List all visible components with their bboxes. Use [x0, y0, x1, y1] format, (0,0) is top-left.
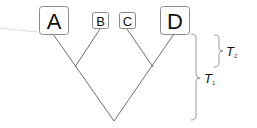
t1-label: T1	[204, 71, 216, 86]
tree-diagram: A B C D T1 T2	[0, 0, 257, 128]
branch-c-cd	[127, 29, 153, 67]
t2-brace	[214, 35, 223, 67]
leaf-c: C	[120, 13, 136, 29]
leaf-d-label: D	[167, 9, 183, 34]
leaf-b-label: B	[96, 14, 105, 29]
leaf-a-label: A	[47, 9, 62, 34]
branch-b-ab	[75, 29, 100, 67]
t1-brace	[191, 34, 200, 120]
leaf-c-label: C	[123, 14, 132, 29]
t2-label: T2	[226, 44, 238, 59]
leaf-a: A	[40, 7, 69, 35]
faint-guide-line	[0, 28, 38, 32]
tree-branches	[53, 29, 174, 121]
leaf-b: B	[93, 13, 109, 29]
leaf-d: D	[161, 7, 190, 35]
branch-d-root	[114, 34, 174, 121]
branch-a-root	[53, 34, 114, 121]
